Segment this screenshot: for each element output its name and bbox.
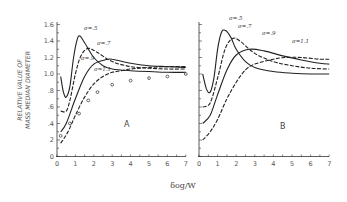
data-point-marker: [96, 91, 99, 94]
y-tick-label: 1.4: [44, 37, 54, 45]
curve-7: [203, 38, 330, 107]
x-tick-label: 2: [92, 160, 96, 168]
x-tick-label: 0: [55, 160, 59, 168]
x-tick-label: 5: [147, 160, 151, 168]
data-point-marker: [59, 134, 62, 137]
data-point-marker: [129, 79, 132, 82]
panel-a-axes: 02.4.6.81.01.21.41.6 01234567: [44, 21, 188, 168]
y-tick-label: .6: [48, 103, 54, 111]
panel-b-series: [203, 30, 330, 140]
data-point-marker: [148, 77, 151, 80]
y-tick-label: 0: [50, 153, 54, 161]
x-axis-label: δog/W: [170, 181, 196, 190]
curve-7: [61, 48, 186, 112]
curve-label-a-sigma-05: σ=.5: [84, 25, 98, 31]
curve-label-a-sigma-07: σ=.7: [97, 40, 111, 46]
curve-label-a-sigma-09: σ=.9: [81, 55, 95, 61]
x-tick-label: 5: [290, 160, 294, 168]
data-point-marker: [87, 99, 90, 102]
y-tick-label: .8: [48, 87, 54, 95]
y-tick-label: 2: [50, 136, 54, 144]
y-tick-label: .4: [48, 120, 54, 128]
x-tick-label: 7: [184, 160, 188, 168]
x-tick-label: 3: [253, 160, 257, 168]
x-tick-label: 4: [271, 160, 275, 168]
y-tick-label: 1.2: [44, 54, 54, 62]
curve-label-b-sigma-09: σ=.9: [262, 30, 276, 36]
curve-label-b-sigma-05: σ=.5: [229, 15, 243, 21]
data-point-marker: [78, 112, 81, 115]
x-tick-label: 6: [165, 160, 169, 168]
data-point-marker: [68, 122, 71, 125]
panel-label-a: A: [124, 120, 130, 129]
y-tick-label: 1.6: [44, 21, 54, 29]
x-tick-label: 1: [73, 160, 77, 168]
y-tick-label: 1.0: [44, 70, 54, 78]
curve-label-b-sigma-07: σ=.7: [238, 23, 252, 29]
x-tick-label: 1: [216, 160, 220, 168]
chart-figure: RELATIVE VALUE OF MASS MEDIAN DIAMETER 0…: [0, 0, 347, 202]
x-tick-label: 4: [129, 160, 133, 168]
y-label-line1: RELATIVE VALUE OF: [16, 59, 23, 121]
panel-label-b: B: [280, 122, 286, 131]
y-axis-label: RELATIVE VALUE OF MASS MEDIAN DIAMETER: [16, 51, 31, 129]
x-tick-label: 0: [197, 160, 201, 168]
x-tick-label: 2: [234, 160, 238, 168]
data-point-marker: [166, 75, 169, 78]
data-point-marker: [184, 73, 187, 76]
x-tick-label: 3: [110, 160, 114, 168]
y-label-line2: MASS MEDIAN DIAMETER: [24, 51, 31, 129]
x-tick-label: 7: [327, 160, 331, 168]
curve-11: [203, 57, 330, 140]
curve-label-a-sigma-11: σ=1.1: [94, 66, 111, 72]
data-point-marker: [111, 83, 114, 86]
curve-label-b-sigma-11: σ=1.1: [292, 38, 309, 44]
x-tick-label: 6: [309, 160, 313, 168]
